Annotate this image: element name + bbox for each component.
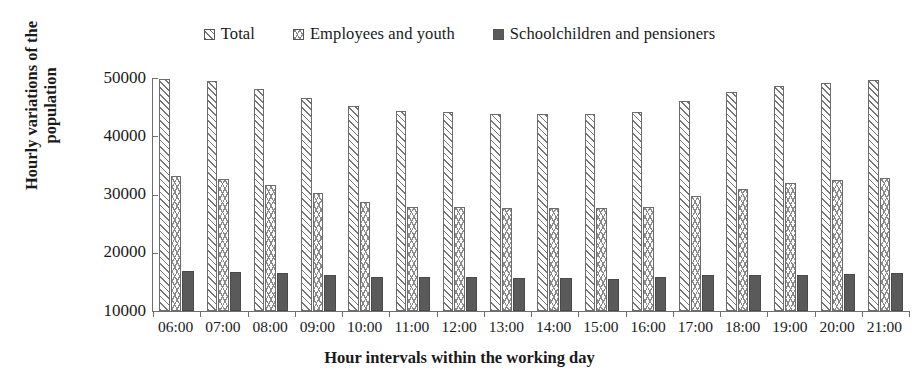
bar-group — [484, 78, 531, 311]
bar — [443, 112, 454, 311]
bar — [182, 271, 194, 311]
bar — [596, 208, 607, 311]
bar — [549, 208, 560, 311]
bar — [419, 277, 431, 311]
bar — [868, 80, 879, 311]
bar — [454, 207, 465, 311]
bar — [585, 114, 596, 311]
bar — [360, 202, 371, 312]
y-axis-tick-label: 30000 — [104, 185, 154, 202]
bar — [643, 207, 654, 311]
bar — [502, 208, 513, 311]
x-axis-tick-label: 21:00 — [861, 316, 908, 338]
bar — [466, 277, 478, 311]
bar-group — [862, 78, 909, 311]
bar — [560, 278, 572, 311]
bar-group — [248, 78, 295, 311]
x-axis-tick-label: 14:00 — [530, 316, 577, 338]
bar — [348, 106, 359, 311]
x-axis-tick-label: 13:00 — [483, 316, 530, 338]
bar — [844, 274, 856, 311]
bar — [880, 178, 891, 311]
y-axis-title: Hourly variations of the population — [22, 0, 61, 220]
bar-groups — [153, 78, 909, 311]
bar — [702, 275, 714, 311]
bar-group — [720, 78, 767, 311]
bar — [608, 279, 620, 311]
bar — [679, 101, 690, 311]
x-axis-tick-label: 19:00 — [766, 316, 813, 338]
x-axis-tick-label: 16:00 — [625, 316, 672, 338]
bar-group — [437, 78, 484, 311]
bar-group — [389, 78, 436, 311]
bar — [371, 277, 383, 311]
plot-area: 1000020000300004000050000 — [152, 78, 909, 312]
bar — [230, 272, 242, 311]
x-axis-tick-label: 17:00 — [672, 316, 719, 338]
bar — [218, 179, 229, 311]
bar-group — [342, 78, 389, 311]
x-axis-tick-label: 15:00 — [577, 316, 624, 338]
bar — [797, 275, 809, 311]
bar — [832, 180, 843, 311]
bar-group — [815, 78, 862, 311]
bar — [632, 112, 643, 311]
bar-group — [200, 78, 247, 311]
bar-group — [767, 78, 814, 311]
bar — [785, 183, 796, 311]
bar — [655, 277, 667, 311]
bar-group — [626, 78, 673, 311]
bar — [738, 189, 749, 311]
bar — [774, 86, 785, 311]
plot-wrapper: Hourly variations of the population 1000… — [0, 0, 919, 391]
bar — [313, 193, 324, 311]
x-axis-labels: 06:0007:0008:0009:0010:0011:0012:0013:00… — [152, 316, 908, 338]
bar — [407, 207, 418, 311]
bar — [171, 176, 182, 311]
x-axis-tick-label: 07:00 — [199, 316, 246, 338]
bar-group — [578, 78, 625, 311]
bar-chart: Total Employees and youth Schoolchildren… — [0, 0, 919, 391]
x-axis-tick-label: 18:00 — [719, 316, 766, 338]
x-axis-tick-label: 06:00 — [152, 316, 199, 338]
bar — [159, 79, 170, 311]
bar — [513, 278, 525, 311]
bar — [396, 111, 407, 311]
bar — [207, 81, 218, 311]
x-axis-tick-mark — [909, 311, 910, 317]
bar — [254, 89, 265, 312]
x-axis-title: Hour intervals within the working day — [0, 348, 919, 368]
y-axis-tick-label: 40000 — [104, 127, 154, 144]
bar-group — [531, 78, 578, 311]
y-axis-tick-label: 10000 — [104, 302, 154, 319]
y-axis-tick-label: 20000 — [104, 243, 154, 260]
bar — [749, 275, 761, 311]
bar — [265, 185, 276, 311]
bar-group — [153, 78, 200, 311]
bar-group — [673, 78, 720, 311]
x-axis-tick-label: 12:00 — [436, 316, 483, 338]
x-axis-tick-label: 10:00 — [341, 316, 388, 338]
x-axis-tick-label: 09:00 — [294, 316, 341, 338]
x-axis-tick-label: 20:00 — [814, 316, 861, 338]
bar — [537, 114, 548, 311]
bar — [726, 92, 737, 311]
bar — [821, 83, 832, 311]
bar-group — [295, 78, 342, 311]
y-axis-tick-label: 50000 — [104, 69, 154, 86]
bar — [891, 273, 903, 311]
bar — [324, 275, 336, 311]
x-axis-tick-label: 08:00 — [247, 316, 294, 338]
bar — [301, 98, 312, 311]
x-axis-tick-label: 11:00 — [388, 316, 435, 338]
bar — [277, 273, 289, 311]
bar — [490, 114, 501, 311]
bar — [691, 196, 702, 311]
